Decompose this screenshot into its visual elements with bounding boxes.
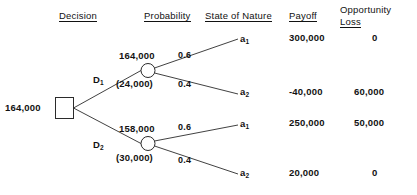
branch-label-d2-text: D [93, 139, 100, 150]
opportunity-loss-d1-a2: 60,000 [354, 86, 384, 97]
edge-chance-2-outcome-1 [155, 125, 239, 141]
decision-node-root [56, 98, 74, 119]
state-label-d2-a2-sub: 2 [245, 172, 249, 179]
header-payoff: Payoff [289, 10, 317, 22]
opportunity-loss-d2-a1: 50,000 [354, 117, 384, 128]
branch-label-d2: D2 [93, 139, 104, 151]
payoff-d2-a1: 250,000 [289, 117, 325, 128]
payoff-d2-a2: 20,000 [289, 167, 319, 178]
state-label-d2-a1: a1 [240, 118, 249, 130]
decision-tree-diagram: Decision Probability State of Nature Pay… [0, 0, 417, 195]
branch-label-d1: D1 [93, 74, 104, 86]
tree-graphics [0, 0, 417, 195]
root-expected-value: 164,000 [5, 102, 41, 113]
chance-node-2-expected-value: 158,000 [119, 123, 155, 134]
header-decision: Decision [59, 10, 97, 22]
state-label-d1-a1-sub: 1 [245, 38, 249, 45]
opportunity-loss-d2-a2: 0 [372, 167, 377, 178]
edge-chance-1-outcome-2 [155, 73, 239, 94]
state-label-d1-a2-sub: 2 [245, 91, 249, 98]
chance-node-2-regret-value: (30,000) [116, 152, 153, 163]
probability-d2-a2: 0.4 [178, 155, 191, 166]
probability-d2-a1: 0.6 [178, 122, 191, 133]
payoff-d1-a2: -40,000 [289, 86, 323, 97]
branch-label-d1-text: D [93, 74, 100, 85]
chance-node-2 [141, 137, 155, 151]
probability-d1-a2: 0.4 [178, 79, 191, 90]
chance-node-1-regret-value: (24,000) [116, 78, 153, 89]
branch-label-d1-sub: 1 [100, 79, 104, 86]
chance-node-1 [141, 64, 155, 78]
header-opportunity-loss-line2: Loss [340, 16, 361, 28]
edge-chance-2-outcome-2 [155, 146, 239, 174]
state-label-d2-a1-sub: 1 [245, 123, 249, 130]
header-probability: Probability [144, 10, 191, 22]
header-state-of-nature: State of Nature [205, 10, 272, 22]
state-label-d2-a2: a2 [240, 167, 249, 179]
chance-node-1-expected-value: 164,000 [119, 50, 155, 61]
probability-d1-a1: 0.6 [178, 50, 191, 61]
branch-label-d2-sub: 2 [100, 144, 104, 151]
state-label-d1-a2: a2 [240, 86, 249, 98]
edge-chance-1-outcome-1 [155, 39, 239, 68]
opportunity-loss-d1-a1: 0 [372, 32, 377, 43]
header-opportunity-loss-line1: Opportunity [340, 4, 391, 15]
edge-root-to-chance-1 [74, 71, 142, 109]
state-label-d1-a1: a1 [240, 33, 249, 45]
payoff-d1-a1: 300,000 [289, 32, 325, 43]
